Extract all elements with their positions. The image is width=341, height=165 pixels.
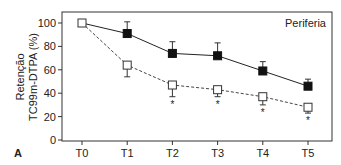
y-tick-label: 100 [38,17,56,29]
y-tick-label: 0 [50,134,56,146]
significance-asterisk: * [306,115,310,126]
y-tick-label: 40 [44,87,56,99]
plot-frame [62,12,332,141]
open-square-marker [259,93,267,101]
significance-asterisk: * [261,107,265,118]
open-square-marker [304,103,312,111]
y-axis: 020406080100 [38,17,62,146]
y-axis-label-line2: TC99m-DTPA (%) [27,33,39,121]
y-axis-label-line1: Retenção [14,53,26,100]
series-open-line [82,23,308,107]
data-series: **** [78,19,312,126]
x-tick-label: T1 [121,147,134,159]
x-tick-label: T2 [166,147,179,159]
x-tick-label: T5 [302,147,315,159]
filled-square-marker [259,67,267,75]
filled-square-marker [168,49,176,57]
open-square-marker [214,86,222,94]
chart: 020406080100 T0T1T2T3T4T5 **** Periferia… [0,0,341,165]
significance-asterisk: * [170,99,174,110]
x-tick-label: T3 [211,147,224,159]
filled-square-marker [304,82,312,90]
y-tick-label: 20 [44,111,56,123]
open-square-marker [168,81,176,89]
panel-label: A [14,147,22,159]
filled-square-marker [214,52,222,60]
annotation-periferia: Periferia [285,17,327,29]
significance-asterisk: * [216,99,220,110]
y-tick-label: 60 [44,64,56,76]
x-axis: T0T1T2T3T4T5 [76,141,315,159]
filled-square-marker [123,30,131,38]
open-square-marker [78,19,86,27]
x-tick-label: T4 [256,147,269,159]
x-tick-label: T0 [76,147,89,159]
y-tick-label: 80 [44,40,56,52]
open-square-marker [123,61,131,69]
